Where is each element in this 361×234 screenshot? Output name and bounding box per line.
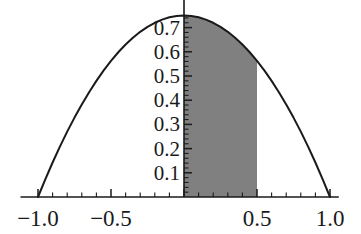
- y-tick-label: 0.2: [154, 138, 180, 159]
- y-tick-label: 0.3: [154, 114, 180, 135]
- shaded-area-group: [184, 16, 257, 198]
- x-axis-ticks: [38, 189, 330, 197]
- y-tick-label: 0.4: [154, 90, 180, 111]
- y-tick-label: 0.7: [154, 17, 180, 38]
- x-tick-label: 1.0: [316, 207, 345, 230]
- x-tick-label: 0.5: [243, 207, 272, 230]
- y-tick-label: 0.6: [154, 41, 180, 62]
- chart-figure: 0.70.60.50.40.30.20.1 −1.0−0.50.51.0: [0, 0, 361, 234]
- y-tick-label: 0.5: [154, 66, 180, 87]
- y-tick-label: 0.1: [154, 162, 180, 183]
- plot-canvas: [0, 0, 361, 234]
- x-tick-label: −1.0: [17, 207, 59, 230]
- shaded-area-path: [184, 16, 257, 198]
- x-tick-label: −0.5: [90, 207, 132, 230]
